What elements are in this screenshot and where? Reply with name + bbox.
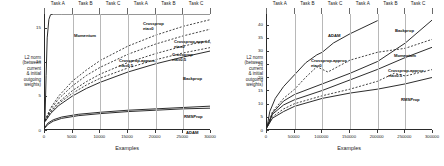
curve-label-crossprop-approx: Crossprop-approx, eta=0.5 [388,69,425,79]
task-tick [99,8,100,14]
y-tick-label: 0 [244,128,263,133]
task-header-task-a: Task A [44,1,72,7]
x-tick-mark [404,130,405,133]
task-tick [294,8,295,14]
x-tick-mark [377,130,378,133]
x-tick-label: 150000 [342,134,356,139]
x-tick-label: 30000 [204,134,216,139]
task-header-task-b: Task B [294,1,322,7]
x-tick-label: 0 [265,134,267,139]
y-tick-label: 40 [244,22,263,27]
curve-label-crossprop-approx: Crossprop-approx, eta=0.5 [119,59,156,69]
curve-label-momentum: Momentum [74,34,96,39]
y-tick-mark [266,51,269,52]
plot-area-left [44,14,210,130]
x-tick-mark [294,130,295,133]
x-tick-mark [44,130,45,133]
task-header-task-a: Task A [127,1,155,7]
task-header-task-c: Task C [182,1,210,7]
y-tick-mark [266,38,269,39]
x-tick-label: 20000 [149,134,161,139]
y-tick-mark [266,90,269,91]
y-tick-mark [44,62,47,63]
x-tick-label: 200000 [370,134,384,139]
x-tick-mark [72,130,73,133]
curve-label-backprop: Backprop [183,77,202,82]
y-tick-mark [266,117,269,118]
task-header-task-b: Task B [72,1,100,7]
task-tick [321,8,322,14]
x-tick-mark [321,130,322,133]
y-tick-label: 10 [22,59,41,64]
y-tick-mark [266,104,269,105]
task-boundary-rule [295,14,296,129]
x-tick-mark [349,130,350,133]
y-tick-mark [266,64,269,65]
x-tick-mark [210,130,211,133]
task-tick [404,8,405,14]
task-header-task-c: Task C [404,1,432,7]
task-tick [266,8,267,14]
task-boundary-rule [378,14,379,129]
curve-label-backprop: Backprop [395,29,414,34]
x-axis-label-right: Examples [266,145,432,151]
task-header-task-b: Task B [155,1,183,7]
task-boundary-rule [322,14,323,129]
y-tick-mark [266,77,269,78]
x-tick-label: 250000 [397,134,411,139]
y-tick-label: 25 [244,62,263,67]
panel-left: L2 norm(betweencurrent& initialoutgoingw… [0,0,222,166]
x-tick-mark [432,130,433,133]
y-tick-label: 15 [22,25,41,30]
x-tick-mark [155,130,156,133]
y-tick-label: 10 [244,101,263,106]
y-axis-label-line: weights) [1,82,41,87]
y-tick-mark [44,28,47,29]
y-tick-label: 0 [22,128,41,133]
task-header-task-a: Task A [266,1,294,7]
y-axis-label-line: weights) [223,82,263,87]
y-tick-label: 30 [244,48,263,53]
task-boundary-rule [183,14,184,129]
x-tick-label: 50000 [288,134,300,139]
panel-right: L2 norm(betweencurrent& initialoutgoingw… [222,0,444,166]
task-boundary-rule [100,14,101,129]
curve-label-crossprop: Crossprop eta=0 [143,22,164,32]
task-header-task-c: Task C [99,1,127,7]
task-tick [72,8,73,14]
y-axis-label-right: L2 norm(betweencurrent& initialoutgoingw… [223,55,263,87]
task-boundary-rule [350,14,351,129]
y-tick-mark [44,96,47,97]
x-tick-mark [99,130,100,133]
x-tick-label: 0 [43,134,45,139]
task-tick [377,8,378,14]
y-tick-label: 15 [244,88,263,93]
x-tick-label: 10000 [94,134,106,139]
task-tick [210,8,211,14]
curve-label-adam: ADAM [328,34,340,39]
task-tick [349,8,350,14]
curve-label-momentum: Momentum [394,54,416,59]
x-axis-label-left: Examples [44,145,210,151]
y-tick-label: 20 [244,75,263,80]
x-tick-label: 100000 [314,134,328,139]
task-header-task-c: Task C [321,1,349,7]
task-tick [432,8,433,14]
curve-label-crossprop: Crossprop eta=0.5 [172,53,193,63]
x-tick-label: 5000 [67,134,76,139]
x-tick-mark [182,130,183,133]
figure-container: L2 norm(betweencurrent& initialoutgoingw… [0,0,444,166]
curve-label-rmsprop: RMSProp [401,98,420,103]
x-tick-label: 300000 [425,134,439,139]
task-boundary-rule [128,14,129,129]
y-tick-mark [266,25,269,26]
y-tick-label: 5 [22,93,41,98]
task-boundary-rule [73,14,74,129]
curve-label-crossprop-approx: Crossprop-approx, eta=0 [311,59,348,69]
task-tick [127,8,128,14]
x-tick-label: 15000 [121,134,133,139]
x-tick-mark [127,130,128,133]
task-header-task-b: Task B [377,1,405,7]
x-tick-mark [266,130,267,133]
task-header-task-a: Task A [349,1,377,7]
